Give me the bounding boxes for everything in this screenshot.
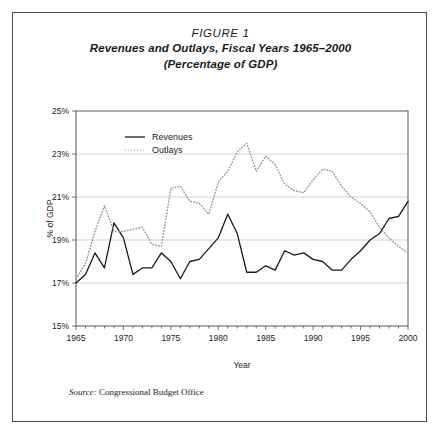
y-axis-tick-labels: 25%23%21%19%17%15% <box>52 106 76 331</box>
figure-frame: FIGURE 1 Revenues and Outlays, Fiscal Ye… <box>12 12 427 422</box>
y-tick-label: 15% <box>52 321 69 331</box>
source-label: Source: <box>69 387 97 397</box>
x-tick-label: 1990 <box>304 333 323 343</box>
legend-label-revenues: Revenues <box>152 132 193 142</box>
series-line-outlays <box>76 143 408 278</box>
y-tick-label: 17% <box>52 278 69 288</box>
x-tick-label: 1980 <box>209 333 228 343</box>
x-axis-ticks <box>76 326 408 330</box>
plot-frame <box>76 111 408 326</box>
x-axis-title: Year <box>233 360 250 370</box>
series-lines <box>76 143 408 283</box>
y-tick-label: 23% <box>52 149 69 159</box>
source-text: Congressional Budget Office <box>99 387 204 397</box>
x-tick-label: 1965 <box>67 333 86 343</box>
legend-label-outlays: Outlays <box>152 145 183 155</box>
chart-area: 25%23%21%19%17%15% 196519701975198019851… <box>13 13 428 423</box>
x-tick-label: 1970 <box>114 333 133 343</box>
x-tick-label: 1995 <box>351 333 370 343</box>
x-axis-tick-labels: 19651970197519801985199019952000 <box>67 333 418 343</box>
y-tick-label: 25% <box>52 106 69 116</box>
line-chart: 25%23%21%19%17%15% 196519701975198019851… <box>13 13 428 423</box>
gridlines <box>76 154 408 283</box>
chart-legend: RevenuesOutlays <box>125 132 193 155</box>
y-axis-title: % of GDP <box>45 199 55 237</box>
x-tick-label: 1975 <box>161 333 180 343</box>
x-tick-label: 2000 <box>399 333 418 343</box>
source-note: Source: Congressional Budget Office <box>69 387 204 397</box>
x-tick-label: 1985 <box>256 333 275 343</box>
series-line-revenues <box>76 201 408 283</box>
